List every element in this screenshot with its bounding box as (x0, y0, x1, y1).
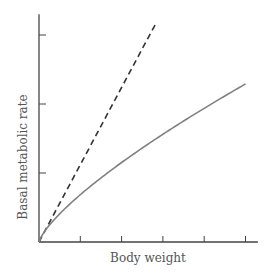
solid-curve-series (39, 84, 246, 242)
x-axis-label: Body weight (110, 251, 186, 265)
y-axis-label: Basal metabolic rate (16, 94, 30, 219)
series-group (39, 22, 246, 242)
chart: Body weight Basal metabolic rate (0, 0, 273, 276)
dashed-line-series (39, 22, 157, 242)
axes (39, 14, 258, 242)
